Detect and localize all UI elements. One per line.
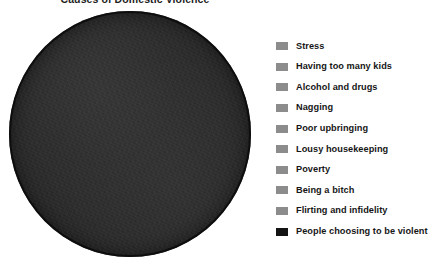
pie-slice-people-choosing-to-be-violent[interactable] xyxy=(9,11,251,257)
legend-swatch-icon xyxy=(276,63,288,71)
legend-item-label: Poor upbringing xyxy=(296,124,368,133)
legend-swatch-icon xyxy=(276,228,288,236)
legend-item-having-too-many-kids[interactable]: Having too many kids xyxy=(276,57,431,78)
legend-swatch-icon xyxy=(276,207,288,215)
pie-rim-outline xyxy=(9,11,251,257)
legend-item-being-a-bitch[interactable]: Being a bitch xyxy=(276,180,431,201)
pie-chart-figure: Causes of Domestic Violence Stress Havin… xyxy=(0,0,431,273)
legend-item-stress[interactable]: Stress xyxy=(276,36,431,57)
legend-item-label: Alcohol and drugs xyxy=(296,83,378,92)
legend-item-people-choosing-to-be-violent[interactable]: People choosing to be violent xyxy=(276,221,431,242)
legend-item-nagging[interactable]: Nagging xyxy=(276,98,431,119)
chart-title: Causes of Domestic Violence xyxy=(0,0,270,5)
legend-item-label: Lousy housekeeping xyxy=(296,145,388,154)
legend-item-label: People choosing to be violent xyxy=(296,227,428,236)
legend-item-label: Nagging xyxy=(296,103,333,112)
legend-item-lousy-housekeeping[interactable]: Lousy housekeeping xyxy=(276,139,431,160)
legend-item-label: Poverty xyxy=(296,165,330,174)
legend-item-label: Being a bitch xyxy=(296,186,354,195)
legend-item-poor-upbringing[interactable]: Poor upbringing xyxy=(276,118,431,139)
legend-swatch-icon xyxy=(276,166,288,174)
legend-swatch-icon xyxy=(276,83,288,91)
legend-swatch-icon xyxy=(276,42,288,50)
legend-item-label: Having too many kids xyxy=(296,62,392,71)
legend-swatch-icon xyxy=(276,145,288,153)
legend-item-flirting-and-infidelity[interactable]: Flirting and infidelity xyxy=(276,201,431,222)
legend-item-label: Stress xyxy=(296,42,324,51)
legend-item-poverty[interactable]: Poverty xyxy=(276,160,431,181)
legend-swatch-icon xyxy=(276,125,288,133)
legend: Stress Having too many kids Alcohol and … xyxy=(276,36,431,242)
legend-item-alcohol-and-drugs[interactable]: Alcohol and drugs xyxy=(276,77,431,98)
legend-swatch-icon xyxy=(276,186,288,194)
legend-swatch-icon xyxy=(276,104,288,112)
pie-plot-area xyxy=(9,11,251,257)
legend-item-label: Flirting and infidelity xyxy=(296,206,388,215)
pie-texture-overlay xyxy=(9,11,251,257)
